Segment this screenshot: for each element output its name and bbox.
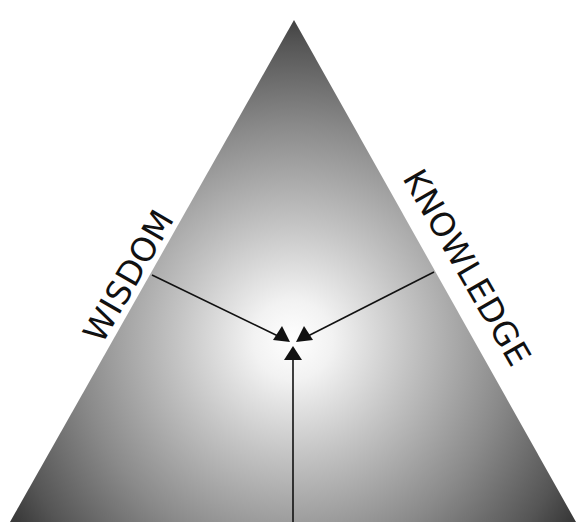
triangle-diagram: WISDOM KNOWLEDGE [0,0,578,530]
